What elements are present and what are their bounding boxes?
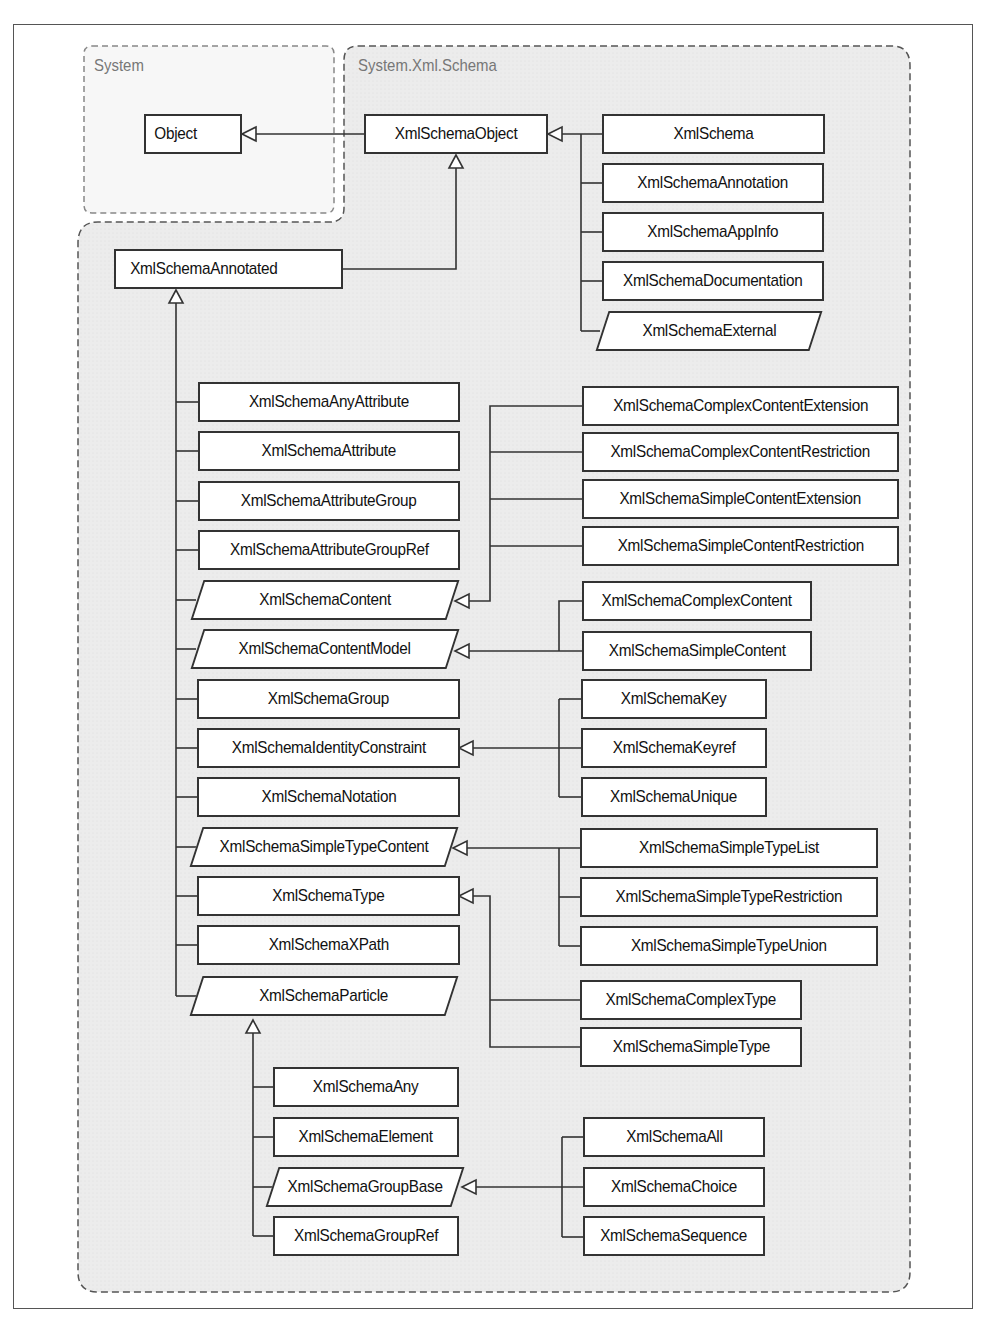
class-complex-content-restriction[interactable]: XmlSchemaComplexContentRestriction [582, 432, 899, 472]
class-simple-type-union[interactable]: XmlSchemaSimpleTypeUnion [580, 926, 878, 966]
class-xml-schema-annotated[interactable]: XmlSchemaAnnotated [114, 249, 343, 289]
class-xml-schema-object[interactable]: XmlSchemaObject [364, 114, 548, 154]
abstract-class-particle[interactable]: XmlSchemaParticle [196, 976, 452, 1016]
class-group[interactable]: XmlSchemaGroup [197, 679, 460, 719]
abstract-class-content-model[interactable]: XmlSchemaContentModel [197, 629, 453, 669]
class-xml-schema-appinfo[interactable]: XmlSchemaAppInfo [602, 212, 824, 252]
abstract-class-content[interactable]: XmlSchemaContent [197, 580, 453, 620]
class-choice[interactable]: XmlSchemaChoice [583, 1167, 765, 1207]
class-xml-schema-annotation[interactable]: XmlSchemaAnnotation [602, 163, 824, 203]
class-any-attribute[interactable]: XmlSchemaAnyAttribute [198, 382, 460, 422]
class-group-ref[interactable]: XmlSchemaGroupRef [273, 1216, 459, 1256]
class-complex-type[interactable]: XmlSchemaComplexType [580, 980, 802, 1020]
class-unique[interactable]: XmlSchemaUnique [581, 777, 767, 817]
class-sequence[interactable]: XmlSchemaSequence [583, 1216, 765, 1256]
package-label-system: System [94, 56, 144, 76]
class-any[interactable]: XmlSchemaAny [273, 1067, 459, 1107]
class-all[interactable]: XmlSchemaAll [583, 1117, 765, 1157]
abstract-class-group-base[interactable]: XmlSchemaGroupBase [272, 1167, 458, 1207]
class-attribute-group-ref[interactable]: XmlSchemaAttributeGroupRef [198, 530, 460, 570]
class-notation[interactable]: XmlSchemaNotation [197, 777, 460, 817]
class-attribute-group[interactable]: XmlSchemaAttributeGroup [198, 481, 460, 521]
class-object[interactable]: Object [144, 114, 242, 154]
class-simple-type-list[interactable]: XmlSchemaSimpleTypeList [580, 828, 878, 868]
class-simple-type-restriction[interactable]: XmlSchemaSimpleTypeRestriction [580, 877, 878, 917]
class-simple-content-extension[interactable]: XmlSchemaSimpleContentExtension [582, 479, 899, 519]
class-complex-content-extension[interactable]: XmlSchemaComplexContentExtension [582, 386, 899, 426]
class-element[interactable]: XmlSchemaElement [273, 1117, 459, 1157]
class-keyref[interactable]: XmlSchemaKeyref [581, 728, 767, 768]
package-label-xml-schema: System.Xml.Schema [358, 56, 497, 76]
abstract-class-xml-schema-external[interactable]: XmlSchemaExternal [602, 311, 816, 351]
class-simple-content[interactable]: XmlSchemaSimpleContent [582, 631, 812, 671]
diagram-lines [0, 0, 987, 1321]
class-identity-constraint[interactable]: XmlSchemaIdentityConstraint [197, 728, 460, 768]
class-xml-schema-documentation[interactable]: XmlSchemaDocumentation [602, 261, 824, 301]
class-complex-content[interactable]: XmlSchemaComplexContent [582, 581, 812, 621]
class-attribute[interactable]: XmlSchemaAttribute [198, 431, 460, 471]
class-key[interactable]: XmlSchemaKey [581, 679, 767, 719]
class-simple-type[interactable]: XmlSchemaSimpleType [580, 1027, 802, 1067]
class-xpath[interactable]: XmlSchemaXPath [197, 925, 460, 965]
abstract-class-simple-type-content[interactable]: XmlSchemaSimpleTypeContent [196, 827, 452, 867]
class-simple-content-restriction[interactable]: XmlSchemaSimpleContentRestriction [582, 526, 899, 566]
class-type[interactable]: XmlSchemaType [197, 876, 460, 916]
class-xml-schema[interactable]: XmlSchema [602, 114, 825, 154]
